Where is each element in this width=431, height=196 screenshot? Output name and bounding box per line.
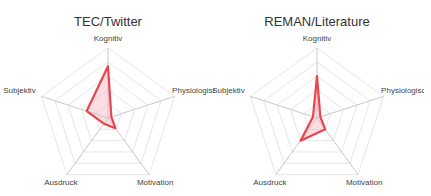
radar-chart-tec-twitter: TEC/TwitterKognitivPhysiologischMotivati… <box>0 0 215 196</box>
axis-label-motivation: Motivation <box>346 178 382 187</box>
radar-chart-reman-literature: REMAN/LiteratureKognitivPhysiologischMot… <box>209 0 424 196</box>
chart-title: REMAN/Literature <box>264 14 369 29</box>
chart-title: TEC/Twitter <box>74 14 143 29</box>
axis-label-kognitiv: Kognitiv <box>303 34 331 43</box>
axis-label-physiologisch: Physiologisch <box>381 86 424 95</box>
axis-label-ausdruck: Ausdruck <box>44 178 78 187</box>
radar-svg: TEC/TwitterKognitivPhysiologischMotivati… <box>0 0 215 196</box>
axis-label-kognitiv: Kognitiv <box>94 34 122 43</box>
axis-label-ausdruck: Ausdruck <box>253 178 287 187</box>
axis-label-subjektiv: Subjektiv <box>3 86 35 95</box>
axis-label-motivation: Motivation <box>137 178 173 187</box>
axis-label-subjektiv: Subjektiv <box>212 86 244 95</box>
radar-svg: REMAN/LiteratureKognitivPhysiologischMot… <box>209 0 424 196</box>
data-series-polygon <box>87 66 116 128</box>
